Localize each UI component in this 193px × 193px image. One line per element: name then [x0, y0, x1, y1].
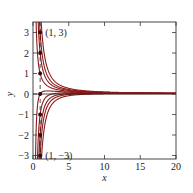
y-axis-label: y — [4, 91, 15, 97]
point-annotation: (1, 3) — [45, 27, 67, 39]
initial-point — [38, 113, 42, 117]
y-tick-label: 3 — [24, 27, 29, 38]
y-tick-label: 0 — [24, 89, 29, 100]
point-annotation: (1, −3) — [45, 150, 72, 162]
initial-point — [38, 31, 42, 35]
x-axis-label: x — [101, 172, 107, 183]
y-tick-label: 1 — [24, 68, 29, 79]
x-tick-label: 10 — [100, 161, 110, 172]
initial-point — [38, 72, 42, 76]
y-tick-label: −2 — [18, 130, 29, 141]
y-tick-label: −1 — [18, 109, 29, 120]
x-tick-label: 5 — [66, 161, 71, 172]
x-tick-label: 15 — [135, 161, 145, 172]
plot-frame — [33, 22, 176, 159]
y-tick-label: −3 — [18, 150, 29, 161]
initial-point — [38, 92, 42, 96]
initial-point — [38, 51, 42, 55]
y-tick-label: 2 — [24, 48, 29, 59]
x-tick-label: 0 — [31, 161, 36, 172]
initial-point — [38, 154, 42, 158]
initial-point — [38, 133, 42, 137]
chart: 05101520−3−2−10123 x y (1, 3)(1, −3) — [0, 0, 193, 193]
x-tick-label: 20 — [171, 161, 181, 172]
